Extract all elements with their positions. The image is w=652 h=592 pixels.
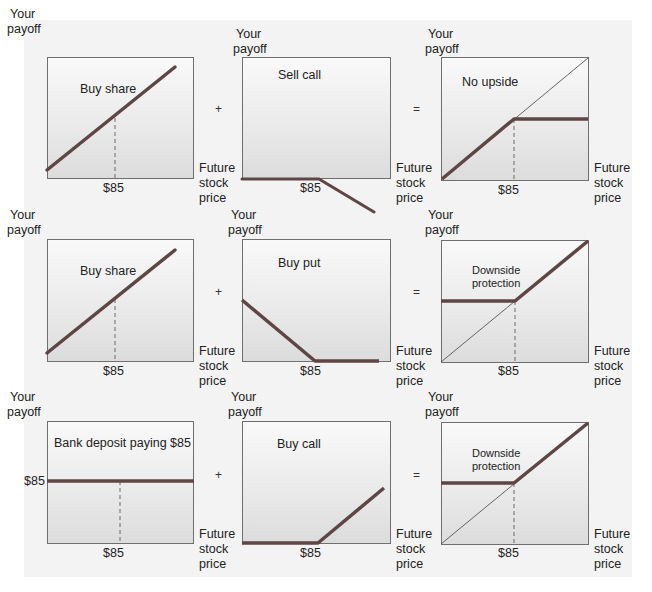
x-axis-label: Future stock price bbox=[396, 527, 432, 572]
payoff-plot bbox=[441, 422, 589, 545]
x-axis-label: Future stock price bbox=[199, 161, 235, 206]
x-axis-label: Future stock price bbox=[199, 344, 235, 389]
x-axis-label: Future stock price bbox=[594, 527, 630, 572]
equals-operator: = bbox=[413, 468, 420, 482]
strike-tick: $85 bbox=[103, 364, 124, 378]
y-axis-label: Your payoff bbox=[425, 208, 459, 238]
chart-buy-share-2: Buy share bbox=[47, 239, 194, 362]
strike-tick: $85 bbox=[300, 364, 321, 378]
strike-tick: $85 bbox=[498, 546, 519, 560]
plus-operator: + bbox=[215, 468, 222, 482]
y-axis-label: Your payoff bbox=[7, 7, 41, 37]
y-axis-label: Your payoff bbox=[7, 208, 41, 238]
chart-downside-protection-put: Downside protection bbox=[441, 240, 589, 363]
chart-bank-deposit: Bank deposit paying $85 bbox=[47, 421, 194, 544]
equals-operator: = bbox=[413, 285, 420, 299]
y-axis-label: Your payoff bbox=[425, 27, 459, 57]
strike-tick: $85 bbox=[498, 183, 519, 197]
y-axis-label: Your payoff bbox=[228, 208, 262, 238]
chart-sell-call: Sell call bbox=[242, 57, 391, 179]
strike-tick: $85 bbox=[103, 546, 124, 560]
plus-operator: + bbox=[215, 285, 222, 299]
y-axis-label: Your payoff bbox=[233, 27, 267, 57]
strike-tick: $85 bbox=[103, 181, 124, 195]
payoff-plot bbox=[441, 57, 589, 181]
strike-tick: $85 bbox=[498, 364, 519, 378]
x-axis-label: Future stock price bbox=[396, 344, 432, 389]
chart-buy-share-1: Buy share bbox=[47, 57, 194, 179]
chart-buy-put: Buy put bbox=[242, 239, 391, 362]
x-axis-label: Future stock price bbox=[594, 344, 630, 389]
payoff-plot bbox=[242, 239, 391, 362]
equals-operator: = bbox=[413, 102, 420, 116]
y-tick: $85 bbox=[24, 474, 45, 488]
strike-tick: $85 bbox=[300, 181, 321, 195]
chart-downside-protection-call: Downside protection bbox=[441, 422, 589, 545]
strike-tick: $85 bbox=[300, 546, 321, 560]
payoff-plot bbox=[441, 240, 589, 363]
x-axis-label: Future stock price bbox=[199, 527, 235, 572]
y-axis-label: Your payoff bbox=[7, 390, 41, 420]
payoff-plot bbox=[47, 239, 194, 362]
y-axis-label: Your payoff bbox=[425, 390, 459, 420]
payoff-plot bbox=[47, 57, 194, 179]
x-axis-label: Future stock price bbox=[396, 161, 432, 206]
payoff-plot bbox=[47, 421, 194, 544]
chart-buy-call: Buy call bbox=[242, 421, 391, 544]
x-axis-label: Future stock price bbox=[594, 161, 630, 206]
chart-no-upside: No upside bbox=[441, 57, 589, 181]
y-axis-label: Your payoff bbox=[228, 390, 262, 420]
payoff-plot bbox=[242, 421, 391, 544]
chart-title: Sell call bbox=[278, 68, 321, 82]
plus-operator: + bbox=[215, 102, 222, 116]
